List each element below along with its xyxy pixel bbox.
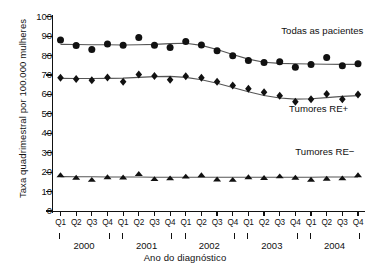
chart-container: Taxa quadrimestral por 100.000 mulheres … [0,0,370,273]
data-point [214,78,221,86]
data-point [57,172,65,177]
data-point [120,42,127,49]
series-label: Tumores RE+ [289,103,348,114]
x-axis-title: Ano do diagnóstico [0,252,370,263]
data-point [182,174,190,179]
data-point [198,41,205,48]
data-point [104,40,111,47]
data-point [245,57,252,64]
data-point [276,173,284,178]
data-point [73,42,80,49]
data-point [151,42,158,49]
data-point [339,62,346,69]
data-point [88,46,95,53]
data-point [88,177,96,182]
data-point [57,37,64,44]
data-point [182,38,189,45]
data-point [261,59,268,66]
data-point [135,34,142,41]
data-point [167,44,174,51]
data-point [354,172,362,177]
data-point [57,74,64,82]
data-point [214,47,221,54]
data-point [104,73,111,81]
data-point [276,58,283,65]
data-point [338,175,346,180]
data-point [197,172,205,177]
data-point [182,72,189,80]
series-label: Todas as pacientes [281,25,363,36]
data-point [73,75,80,83]
data-point [355,60,362,67]
data-point [229,52,236,59]
data-point [120,78,127,86]
data-point [292,64,299,71]
data-point [135,171,143,176]
plot-marks [0,0,370,273]
data-point [89,76,96,84]
data-point [151,72,158,80]
data-point [323,90,330,98]
data-point [355,90,362,98]
data-point [323,54,330,61]
trend-line [61,76,359,99]
series-label: Tumores RE− [295,146,354,157]
data-point [166,175,174,180]
data-point [308,61,315,68]
